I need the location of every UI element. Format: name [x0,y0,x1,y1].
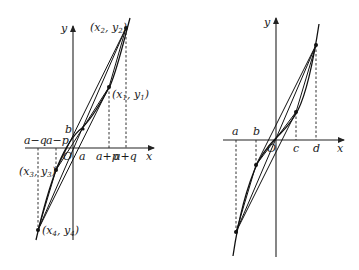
point-b [254,163,258,167]
point-d [314,43,318,47]
diagram-canvas: y x O b a−q a−p a a+p a+q (x2, y2) (x1, … [0,0,359,270]
point-a [234,230,238,234]
point-x1-y1 [107,85,111,89]
right-figure: y x O a b c d [223,16,344,257]
right-origin-label: O [267,142,276,155]
label-x3-y3: (x3, y3) [19,165,56,179]
tick-a-minus-q: a−q [24,134,47,147]
left-figure: y x O b a−q a−p a a+p a+q (x2, y2) (x1, … [19,18,154,240]
chord-a-c [236,112,296,232]
left-x-label: x [146,150,153,163]
point-a-b [81,127,84,130]
tick-a-minus-p: a−p [46,134,69,147]
tick-a-plus-q: a+q [114,150,137,163]
point-c [294,110,298,114]
tick-c: c [293,142,299,155]
left-y-label: y [60,22,68,35]
label-x2-y2: (x2, y2) [90,21,127,35]
right-x-label: x [337,142,344,155]
tick-b: b [253,125,260,138]
tick-a: a [232,125,239,138]
label-x1-y1: (x1, y1) [112,88,149,102]
left-origin-label: O [63,150,72,163]
right-y-label: y [263,16,271,29]
tick-d: d [313,142,320,155]
tick-a: a [79,150,86,163]
point-x4-y4 [36,228,40,232]
chord-b-d [256,45,316,165]
